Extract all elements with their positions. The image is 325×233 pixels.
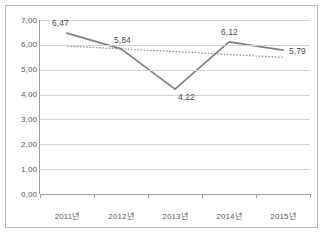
gridline <box>40 144 310 145</box>
data-point-label: 5,84 <box>114 35 131 45</box>
gridline <box>40 20 310 21</box>
x-axis-tick <box>202 194 203 198</box>
x-axis-category-label: 2015년 <box>256 210 310 221</box>
y-axis-tick-label: 2,00 <box>21 140 37 149</box>
x-axis-category-label: 2013년 <box>148 210 202 221</box>
y-axis-tick-label: 1,00 <box>21 165 37 174</box>
x-axis-tick <box>40 194 41 198</box>
chart-frame: 0,001,002,003,004,005,006,007,00 2011년20… <box>5 5 318 228</box>
gridline <box>40 45 310 46</box>
y-axis-tick-label: 5,00 <box>21 65 37 74</box>
gridline <box>40 169 310 170</box>
data-point-label: 6,47 <box>52 18 69 28</box>
x-axis-tick <box>256 194 257 198</box>
y-axis-tick-label: 3,00 <box>21 115 37 124</box>
y-axis-tick-label: 0,00 <box>21 190 37 199</box>
x-axis-tick <box>148 194 149 198</box>
trendline-path <box>67 46 283 57</box>
series-line-path <box>67 33 283 89</box>
y-axis-tick-label: 4,00 <box>21 90 37 99</box>
gridline <box>40 194 310 195</box>
gridline <box>40 119 310 120</box>
data-point-label: 5,79 <box>289 46 306 56</box>
data-point-label: 6,12 <box>221 27 238 37</box>
x-axis-category-label: 2012년 <box>94 210 148 221</box>
chart-plot-wrapper: 0,001,002,003,004,005,006,007,00 2011년20… <box>6 6 319 229</box>
x-axis-category-label: 2014년 <box>202 210 256 221</box>
series-lines <box>40 20 310 194</box>
y-axis-tick-label: 7,00 <box>21 16 37 25</box>
plot-area: 2011년2012년2013년2014년2015년6,475,844,226,1… <box>39 20 310 194</box>
gridline <box>40 95 310 96</box>
x-axis-category-label: 2011년 <box>40 210 94 221</box>
y-axis: 0,001,002,003,004,005,006,007,00 <box>6 6 37 229</box>
x-axis-tick <box>94 194 95 198</box>
x-axis-tick <box>310 194 311 198</box>
data-point-label: 4,22 <box>178 92 195 102</box>
y-axis-tick-label: 6,00 <box>21 40 37 49</box>
gridline <box>40 70 310 71</box>
